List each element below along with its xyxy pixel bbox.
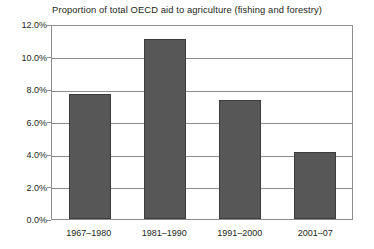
x-axis: 1967–19801981–19901991–20002001–07 [51,228,353,239]
x-tick-label: 1981–1990 [127,228,203,239]
bar-slot [277,26,352,219]
bar [69,94,111,219]
bars-layer [52,26,352,219]
y-tick-label: 2.0% [0,183,47,193]
y-tick-label: 8.0% [0,85,47,95]
y-axis: 0.0%2.0%4.0%6.0%8.0%10.0%12.0% [0,25,47,220]
plot-area [51,25,353,220]
y-tick-label: 6.0% [0,118,47,128]
bar [144,39,186,219]
y-tick-label: 4.0% [0,150,47,160]
bar-chart-figure: Proportion of total OECD aid to agricult… [0,0,374,249]
y-tick-label: 10.0% [0,53,47,63]
bar [219,100,261,219]
x-tick-label: 2001–07 [278,228,354,239]
bar-slot [202,26,277,219]
bar-slot [52,26,127,219]
y-tick-label: 12.0% [0,20,47,30]
bar-slot [127,26,202,219]
bar [294,152,336,219]
x-tick-label: 1991–2000 [202,228,278,239]
x-tick-label: 1967–1980 [51,228,127,239]
chart-title: Proportion of total OECD aid to agricult… [0,4,374,16]
y-tick-label: 0.0% [0,215,47,225]
